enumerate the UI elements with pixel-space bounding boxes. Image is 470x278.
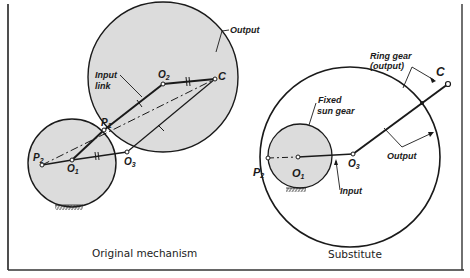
label-input-link-1: Input [95, 70, 118, 80]
ground-hatch [55, 205, 83, 210]
label-ring-gear-1: Ring gear [370, 51, 412, 61]
label-c-sub: C [436, 65, 445, 79]
label-ring-gear-2: (output) [370, 61, 404, 71]
caption-substitute: Substitute [328, 248, 382, 260]
label-fixed-1: Fixed [318, 95, 342, 105]
label-input: Input [340, 186, 363, 196]
mechanism-diagram: Output Input link O2 C P1 P2 O1 O3 Origi… [0, 0, 470, 278]
label-input-link-2: link [95, 81, 111, 91]
label-output: Output [230, 25, 260, 35]
substitute-mechanism: Ring gear (output) C Fixed sun gear P2 O… [253, 51, 451, 260]
caption-original: Original mechanism [92, 247, 197, 259]
label-c: C [218, 70, 227, 82]
label-output-sub: Output [387, 151, 417, 161]
label-o3: O3 [124, 156, 136, 168]
label-fixed-2: sun gear [317, 106, 355, 116]
original-mechanism: Output Input link O2 C P1 P2 O1 O3 Origi… [28, 2, 260, 259]
